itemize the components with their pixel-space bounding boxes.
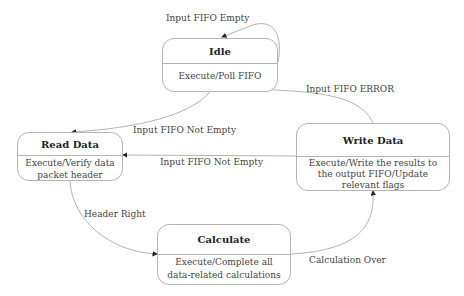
state-read-action-1: Execute/Verify data (18, 157, 122, 169)
state-calc-action-1: Execute/Complete all (158, 256, 290, 269)
edge-write-to-idle (232, 89, 373, 123)
label-idle-to-read: Input FIFO Not Empty (133, 125, 236, 135)
state-write-title: Write Data (297, 124, 449, 157)
state-write-action-3: relevant flags (297, 180, 449, 191)
state-write-action-1: Execute/Write the results to (297, 158, 449, 169)
state-idle-action: Execute/Poll FIFO (163, 64, 277, 84)
state-write-action-2: the output FIFO/Update (297, 169, 449, 180)
label-calc-to-write: Calculation Over (309, 255, 386, 265)
state-read-action-2: packet header (18, 169, 122, 181)
state-write-data: Write Data Execute/Write the results to … (296, 123, 450, 191)
label-write-to-idle: Input FIFO ERROR (306, 84, 394, 94)
state-read-title: Read Data (18, 133, 122, 156)
edge-write-to-read (123, 155, 296, 156)
label-write-to-read: Input FIFO Not Empty (160, 157, 263, 167)
state-idle: Idle Execute/Poll FIFO (162, 38, 278, 92)
state-idle-title: Idle (163, 39, 277, 64)
label-idle-self: Input FIFO Empty (166, 13, 249, 23)
state-read-data: Read Data Execute/Verify data packet hea… (17, 132, 123, 181)
edge-calc-to-write (291, 191, 373, 254)
state-calculate: Calculate Execute/Complete all data-rela… (157, 224, 291, 285)
state-calc-title: Calculate (158, 225, 290, 255)
label-read-to-calc: Header Right (84, 209, 146, 219)
state-calc-action-2: data-related calculations (158, 269, 290, 282)
